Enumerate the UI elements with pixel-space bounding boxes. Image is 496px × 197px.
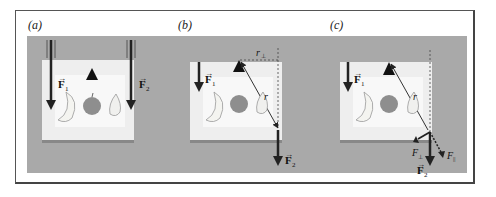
f1-sub: 1 (65, 85, 69, 93)
banana-icon (356, 92, 373, 122)
pear-icon (110, 94, 121, 116)
panel-c (343, 50, 445, 166)
f2-sub: 2 (424, 171, 428, 179)
r-label: r (264, 91, 268, 102)
panel-b (194, 48, 283, 166)
vector-arrow: → (58, 74, 66, 83)
r-line (391, 64, 428, 130)
f2-sub: 2 (292, 161, 296, 169)
f1-arrowhead-icon (46, 100, 56, 110)
f2-arrowhead-icon (425, 156, 435, 166)
f2-arrowhead-icon (273, 156, 283, 166)
apple-icon (230, 95, 248, 113)
f-parallel-arrowhead-icon (438, 151, 445, 158)
vector-arrow: → (285, 150, 293, 159)
f-perp-arrow (418, 132, 430, 139)
f1-arrowhead-icon (343, 82, 353, 92)
r-perp-sub: ⊥ (261, 53, 266, 59)
apple-icon (83, 97, 101, 115)
f2-arrowhead-icon (126, 100, 136, 110)
vector-arrow: → (354, 69, 362, 78)
f-parallel-arrow (430, 132, 441, 152)
f1-arrowhead-icon (194, 82, 204, 92)
vector-arrow: → (205, 69, 213, 78)
diagram-svg: F 1 → F 2 → F 1 → r ⊥ r F 2 → (0, 0, 496, 197)
vector-arrow: → (139, 74, 147, 83)
f1-sub: 1 (212, 80, 216, 88)
f1-sub: 1 (361, 80, 365, 88)
r-perp-label: r (256, 47, 260, 58)
pivot-icon (86, 68, 98, 80)
vector-arrow: → (417, 160, 425, 169)
f-parallel-sub: || (453, 156, 455, 162)
r-line (241, 62, 278, 128)
apple-stem (92, 93, 93, 97)
banana-icon (206, 92, 223, 122)
apple-icon (380, 95, 398, 113)
f2-sub: 2 (146, 85, 150, 93)
r-label: r (413, 91, 417, 102)
f-perp-arrowhead-icon (413, 136, 419, 143)
banana-icon (58, 92, 75, 122)
